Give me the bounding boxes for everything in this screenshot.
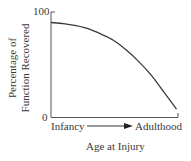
chart: 100 0 Percentage of Function Recovered I… <box>0 0 191 161</box>
x-axis-title: Age at Injury <box>86 140 145 152</box>
y-tick-label-0: 0 <box>42 111 48 123</box>
arrow-head-icon <box>124 123 133 129</box>
x-label-adulthood: Adulthood <box>135 120 182 132</box>
x-label-infancy: Infancy <box>51 120 85 132</box>
y-axis-title-line1: Percentage of <box>6 24 19 113</box>
y-axis-title: Percentage of Function Recovered <box>6 24 32 113</box>
y-tick-label-100: 100 <box>33 5 50 17</box>
y-axis-title-line2: Function Recovered <box>19 24 32 113</box>
recovery-curve <box>51 23 177 110</box>
